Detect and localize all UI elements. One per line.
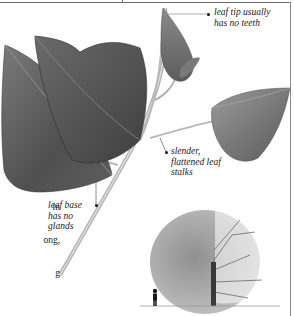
body-text-line <box>0 301 60 312</box>
leaf-stalks-pointer-dot <box>165 151 168 154</box>
leaf-tip-annotation: leaf tip usually has no teeth <box>214 7 270 28</box>
leaf-base-annotation: leaf base has no glands <box>48 200 82 232</box>
leaf-base-pointer-dot <box>95 204 98 207</box>
human-figure <box>153 289 157 306</box>
leaf-stalks-annotation: slender, flattened leaf stalks <box>171 146 221 178</box>
leaf-tip-pointer-dot <box>207 13 210 16</box>
body-text-line: ong, <box>0 235 60 246</box>
body-text-line: g <box>0 268 60 279</box>
tree-illustration <box>140 210 280 314</box>
